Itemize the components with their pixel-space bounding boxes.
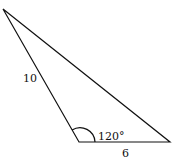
side-left-label: 10	[23, 72, 37, 85]
angle-label: 120°	[98, 130, 125, 143]
triangle-diagram: 10 120° 6	[0, 0, 177, 162]
side-bottom-label: 6	[122, 147, 129, 160]
